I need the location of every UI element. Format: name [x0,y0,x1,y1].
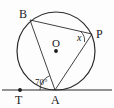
vertex-label-a: A [51,94,60,106]
geometry-figure: B P A T O 70° x [0,0,114,108]
vertex-label-p: P [96,28,103,40]
geometry-canvas [0,0,114,108]
center-label-o: O [52,38,60,49]
angle-label-tangent-chord: 70° [35,78,48,87]
center-point-marker [54,49,58,53]
vertex-label-b: B [19,8,27,20]
point-marker-T [18,88,22,92]
vertex-label-t: T [15,94,22,106]
angle-label-x: x [77,33,81,43]
chord-AP [55,34,92,90]
